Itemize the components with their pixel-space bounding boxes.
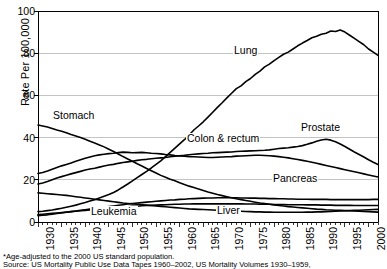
series-label-colon-rectum: Colon & rectum <box>186 133 260 144</box>
series-label-stomach: Stomach <box>52 110 95 121</box>
series-label-lung: Lung <box>233 45 258 56</box>
footnote-source: Source: US Mortality Public Use Data Tap… <box>3 261 311 269</box>
x-tick-label-2000: 2000 <box>375 227 387 267</box>
series-label-prostate: Prostate <box>300 122 341 133</box>
series-label-pancreas: Pancreas <box>272 173 318 184</box>
x-tick-label-1990: 1990 <box>327 227 339 267</box>
series-label-leukemia: Leukemia <box>90 206 138 217</box>
x-tick-label-1995: 1995 <box>351 227 363 267</box>
series-label-liver: Liver <box>216 205 241 216</box>
